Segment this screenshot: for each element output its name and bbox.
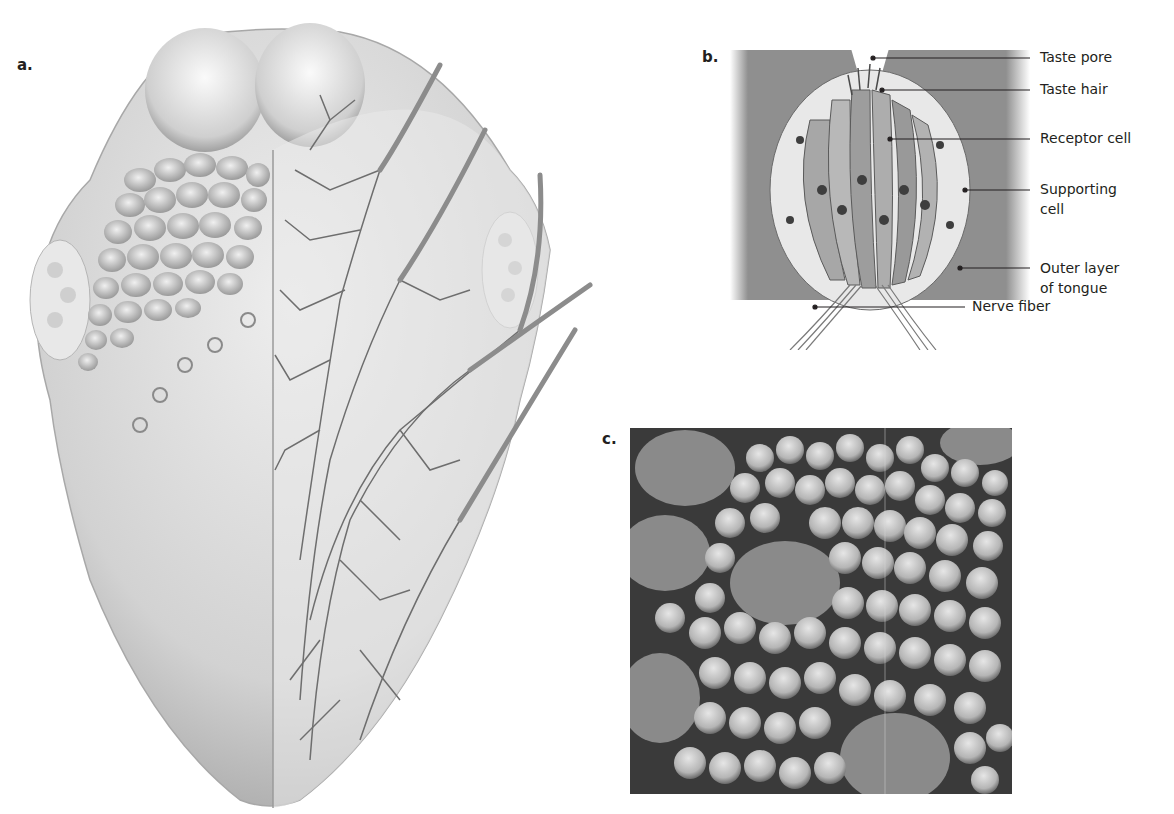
sem-micrograph (630, 428, 1012, 794)
callout-supporting-cell-line1: Supporting (1040, 179, 1117, 199)
callout-supporting-cell-line2: cell (1040, 199, 1117, 219)
tongue-illustration (0, 0, 620, 814)
panel-b-label: b. (702, 48, 718, 66)
callout-outer-layer-line1: Outer layer (1040, 258, 1119, 278)
callout-supporting-cell: Supporting cell (1040, 179, 1117, 219)
callout-receptor-cell: Receptor cell (1040, 128, 1131, 148)
callout-outer-layer-line2: of tongue (1040, 278, 1119, 298)
callout-taste-hair: Taste hair (1040, 79, 1108, 99)
callout-taste-pore: Taste pore (1040, 47, 1112, 67)
callout-nerve-fiber: Nerve fiber (972, 296, 1050, 316)
callout-outer-layer: Outer layer of tongue (1040, 258, 1119, 298)
